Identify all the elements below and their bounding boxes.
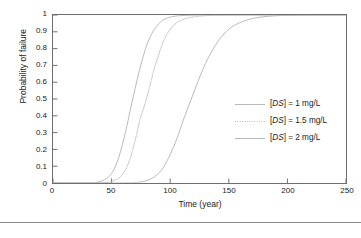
- legend-item: [DS] = 1.5 mg/L: [235, 117, 327, 125]
- chart-legend: [DS] = 1 mg/L[DS] = 1.5 mg/L[DS] = 2 mg/…: [235, 100, 327, 143]
- figure-container: Probability of failure 00.10.20.30.40.50…: [0, 0, 361, 238]
- legend-line-swatch: [235, 135, 265, 142]
- page-divider-rule: [0, 222, 361, 223]
- legend-line-swatch: [235, 118, 265, 125]
- legend-item: [DS] = 1 mg/L: [235, 100, 327, 108]
- x-tick-label: 200: [281, 187, 294, 195]
- x-axis-title: Time (year): [52, 200, 348, 209]
- x-tick-label: 50: [107, 187, 116, 195]
- x-tick-label: 150: [222, 187, 235, 195]
- x-tick-label: 250: [340, 187, 353, 195]
- legend-label: [DS] = 1.5 mg/L: [270, 117, 327, 125]
- x-tick-label: 100: [163, 187, 176, 195]
- legend-label: [DS] = 2 mg/L: [270, 134, 320, 142]
- legend-item: [DS] = 2 mg/L: [235, 134, 327, 142]
- legend-line-swatch: [235, 101, 265, 108]
- page-footer-faint-text: [0, 228, 361, 238]
- legend-label: [DS] = 1 mg/L: [270, 100, 320, 108]
- x-tick-label: 0: [50, 187, 54, 195]
